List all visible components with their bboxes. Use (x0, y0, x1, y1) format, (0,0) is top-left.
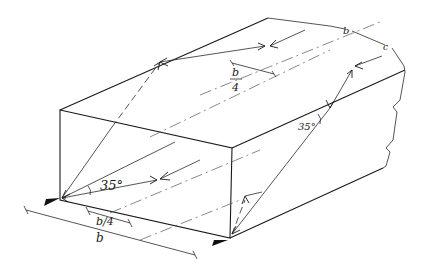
ray-right-top (355, 56, 382, 66)
arrow-icon-filled (212, 240, 228, 246)
ray-paths (62, 30, 382, 234)
top-right-edge (232, 70, 405, 148)
break-line-3 (383, 48, 405, 168)
arrow-icon (355, 62, 363, 69)
arrow-icon-filled (44, 198, 60, 206)
offset-bottom-label: b/4 (96, 215, 114, 228)
width-label: b (96, 231, 104, 245)
centre-line-top (200, 22, 380, 95)
angle-arc-front (88, 186, 91, 195)
break-label-b: b (343, 25, 349, 36)
ray-top-return (270, 30, 305, 46)
duct-diagram: 35° 35° b 4 b/4 b b c (0, 0, 430, 273)
break-line-2 (352, 31, 385, 45)
offset-top-numerator: b (232, 66, 239, 79)
ray-right-short (245, 192, 262, 196)
angle-label-right: 35° (298, 121, 316, 132)
ray-right-hidden (232, 200, 245, 234)
break-line (268, 18, 345, 29)
arrowheads (44, 40, 363, 246)
arrow-icon (242, 196, 249, 204)
centre-lines (110, 22, 380, 240)
ray-35-return (160, 160, 200, 179)
angle-label-front: 35° (100, 178, 123, 193)
break-label-c: c (383, 42, 388, 52)
bottom-right-edge (230, 168, 383, 238)
centre-line-mid (110, 150, 260, 213)
ray-top-across (160, 46, 265, 62)
centre-line-low (140, 200, 240, 240)
ray-hidden-up (112, 62, 160, 127)
front-face (60, 110, 232, 238)
arrow-icon (160, 172, 170, 180)
offset-top-denominator: 4 (231, 81, 239, 94)
